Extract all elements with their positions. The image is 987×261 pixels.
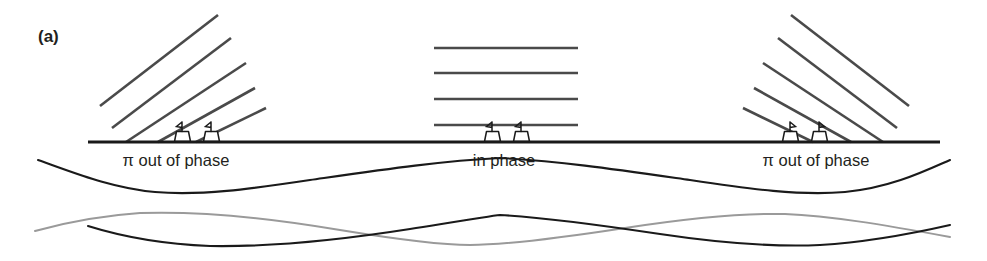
ship-icon	[812, 122, 828, 142]
ship-icon	[204, 122, 220, 142]
wave-phase-figure: (a)	[0, 0, 987, 261]
panel-label: (a)	[38, 27, 59, 46]
figure-canvas: (a)	[0, 0, 987, 261]
region-label-left: π out of phase	[123, 151, 230, 169]
region-label-right: π out of phase	[763, 151, 870, 169]
wavefront-group-left	[100, 15, 266, 142]
wavefront-group-right	[743, 15, 909, 142]
ship-icon	[783, 122, 799, 142]
wavefront-line	[754, 88, 851, 142]
wavefront-group-center	[434, 48, 578, 125]
wavefront-line	[743, 108, 813, 142]
component-wave-b-curve	[35, 213, 950, 245]
